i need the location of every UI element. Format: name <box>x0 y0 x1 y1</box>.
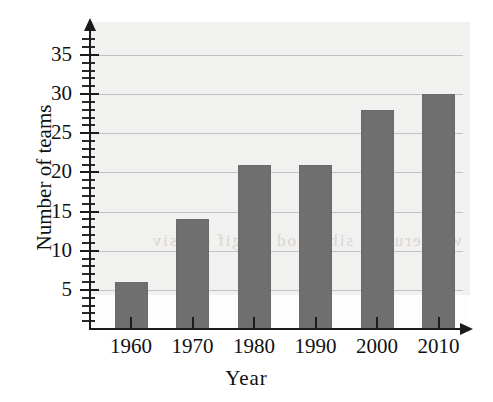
y-axis-title: Number of teams <box>32 48 57 308</box>
x-tick-1970 <box>192 317 194 328</box>
gridline-25 <box>91 133 463 134</box>
bar-chart-figure: woh erutcip siht seod erugif elbisiv 510… <box>0 0 493 402</box>
arrow-up-icon <box>84 18 96 31</box>
x-axis-label-1980: 1980 <box>219 336 289 357</box>
x-tick-1980 <box>253 317 255 328</box>
gridline-10 <box>91 251 463 252</box>
x-tick-2000 <box>376 317 378 328</box>
x-axis-label-1970: 1970 <box>158 336 228 357</box>
gridline-15 <box>91 212 463 213</box>
plot-background <box>90 22 470 295</box>
bar-2000 <box>361 110 394 329</box>
x-tick-1990 <box>315 317 317 328</box>
bar-1980 <box>238 165 271 329</box>
x-axis-line <box>89 328 463 330</box>
gridline-20 <box>91 172 463 173</box>
x-axis-label-2000: 2000 <box>342 336 412 357</box>
gridline-35 <box>91 55 463 56</box>
x-axis-label-1960: 1960 <box>96 336 166 357</box>
arrow-right-icon <box>460 323 473 335</box>
y-axis-line <box>89 30 91 330</box>
x-axis-title: Year <box>0 366 493 391</box>
x-axis-label-1990: 1990 <box>281 336 351 357</box>
x-tick-2010 <box>438 317 440 328</box>
x-axis-label-2010: 2010 <box>404 336 474 357</box>
x-tick-1960 <box>130 317 132 328</box>
bar-1970 <box>176 219 209 329</box>
gridline-30 <box>91 94 463 95</box>
bar-2010 <box>422 94 455 329</box>
bar-1990 <box>299 165 332 329</box>
